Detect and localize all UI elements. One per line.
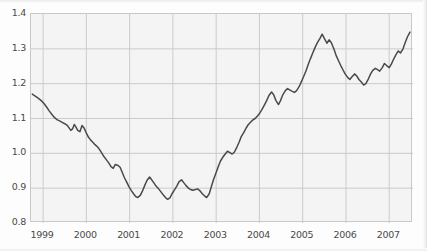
y-axis-tick-1-1: 1.1 bbox=[2, 113, 26, 123]
y-axis-tick-0-8: 0.8 bbox=[2, 217, 26, 227]
y-axis-tick-1-4: 1.4 bbox=[2, 8, 26, 18]
page-edge-right bbox=[423, 0, 427, 251]
x-axis-tick-2003: 2003 bbox=[193, 230, 237, 240]
page-edge-top bbox=[0, 0, 427, 3]
data-series-line bbox=[31, 14, 413, 223]
x-axis-tick-2000: 2000 bbox=[63, 230, 107, 240]
y-axis-tick-1-2: 1.2 bbox=[2, 78, 26, 88]
x-axis-tick-2006: 2006 bbox=[323, 230, 367, 240]
x-axis-tick-2007: 2007 bbox=[366, 230, 410, 240]
y-axis-tick-0-9: 0.9 bbox=[2, 182, 26, 192]
x-axis-tick-2001: 2001 bbox=[107, 230, 151, 240]
series-path-rate bbox=[32, 32, 410, 199]
plot-area bbox=[30, 13, 412, 222]
x-axis-tick-2004: 2004 bbox=[236, 230, 280, 240]
chart-container: 1.41.31.21.11.00.90.8 199920002001200220… bbox=[0, 0, 427, 251]
x-axis-tick-1999: 1999 bbox=[20, 230, 64, 240]
y-axis-tick-1-3: 1.3 bbox=[2, 43, 26, 53]
x-axis-tick-2005: 2005 bbox=[280, 230, 324, 240]
x-axis-tick-2002: 2002 bbox=[150, 230, 194, 240]
y-axis-tick-1-0: 1.0 bbox=[2, 147, 26, 157]
